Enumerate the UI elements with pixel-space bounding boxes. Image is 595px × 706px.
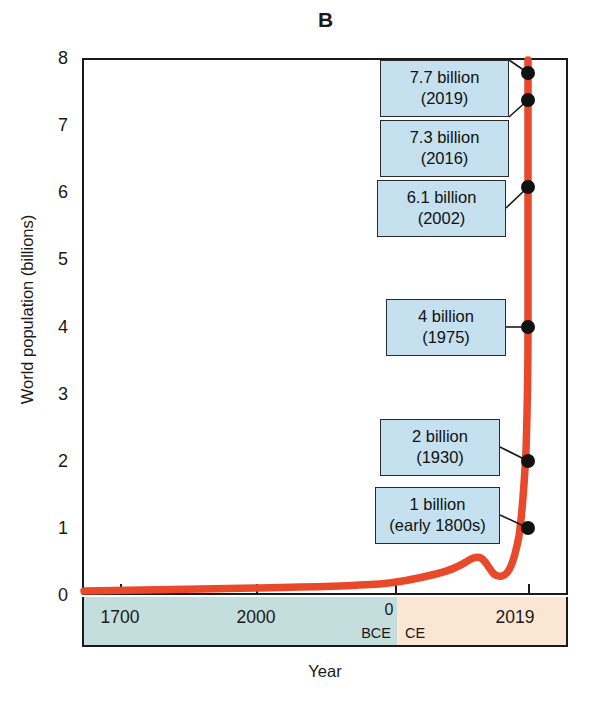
callout-2002-value: 6.1 billion (407, 187, 477, 208)
callout-2016-year: (2016) (421, 148, 469, 169)
panel-letter: B (318, 8, 334, 32)
era-band-bce: 1700 2000 BCE 0 (84, 597, 397, 645)
callout-1800s-value: 1 billion (410, 494, 466, 515)
callout-2019: 7.7 billion (2019) (380, 60, 509, 117)
era-band-row: 1700 2000 BCE 0 CE 2019 (82, 597, 568, 647)
era-label-ce: CE (405, 625, 425, 641)
y-tick-label-8: 8 (42, 48, 68, 69)
y-tick-label-2: 2 (42, 451, 68, 472)
x-tick-mark-2000bce (256, 584, 258, 595)
callout-1975-value: 4 billion (418, 306, 474, 327)
callout-1975-year: (1975) (422, 327, 470, 348)
x-tick-mark-2019 (528, 584, 530, 595)
callout-2019-year: (2019) (421, 88, 469, 109)
callout-2002: 6.1 billion (2002) (377, 180, 506, 237)
y-axis-title: World population (billions) (18, 50, 37, 570)
x-tick-label-1700: 1700 (101, 607, 140, 628)
y-tick-label-6: 6 (42, 182, 68, 203)
callout-2019-value: 7.7 billion (410, 67, 480, 88)
y-tick-label-4: 4 (42, 317, 68, 338)
callout-1930-value: 2 billion (412, 426, 468, 447)
callout-1800s: 1 billion (early 1800s) (375, 487, 500, 544)
y-tick-label-7: 7 (42, 115, 68, 136)
callout-2016-value: 7.3 billion (410, 127, 480, 148)
callout-2002-year: (2002) (418, 208, 466, 229)
callout-2016: 7.3 billion (2016) (380, 120, 509, 177)
callout-1975: 4 billion (1975) (386, 299, 506, 356)
x-tick-label-2019: 2019 (496, 607, 535, 628)
x-axis-title: Year (82, 662, 568, 681)
era-band-ce: CE 2019 (397, 597, 566, 645)
callout-1930: 2 billion (1930) (380, 419, 500, 476)
x-tick-label-2000: 2000 (237, 607, 276, 628)
population-figure: B World population (billions) 0 1 2 3 4 … (0, 0, 595, 706)
era-label-bce: BCE (361, 625, 391, 641)
x-tick-mark-0 (395, 584, 397, 595)
y-tick-label-3: 3 (42, 384, 68, 405)
y-tick-label-5: 5 (42, 249, 68, 270)
x-tick-label-0: 0 (385, 601, 394, 619)
x-tick-mark-1700bce (120, 584, 122, 595)
callout-1800s-year: (early 1800s) (389, 515, 485, 536)
callout-1930-year: (1930) (416, 447, 464, 468)
y-tick-label-1: 1 (42, 518, 68, 539)
y-tick-label-0: 0 (42, 585, 68, 606)
